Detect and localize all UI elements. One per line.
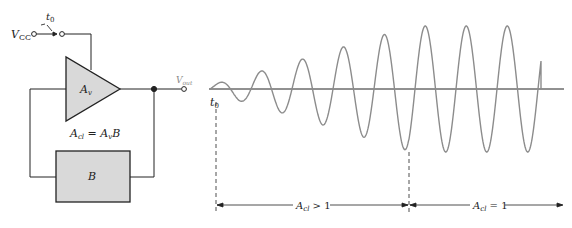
t0-label: t0 — [210, 96, 219, 110]
vcc-terminal — [32, 32, 37, 37]
amplifier-triangle — [66, 57, 120, 121]
oscillator-feedback-diagram: VCC t0 Av Vout Acl = AvB B t0 Acl > 1 Ac… — [0, 0, 572, 228]
vout-label: Vout — [176, 75, 193, 86]
closed-loop-gain-equation: Acl = AvB — [69, 127, 120, 141]
switch-actuator-icon[interactable] — [41, 24, 52, 31]
feedback-label: B — [87, 170, 96, 183]
region-growing-label: Acl > 1 — [295, 200, 331, 213]
circuit — [30, 24, 186, 202]
waveform-plot — [209, 26, 564, 213]
vcc-label: VCC — [11, 28, 31, 42]
switch-arrow-icon — [53, 32, 57, 36]
switch-contact — [60, 32, 65, 37]
region-steady-label: Acl = 1 — [472, 200, 508, 213]
vout-terminal — [182, 87, 187, 92]
switch-time-label: t0 — [46, 11, 55, 24]
